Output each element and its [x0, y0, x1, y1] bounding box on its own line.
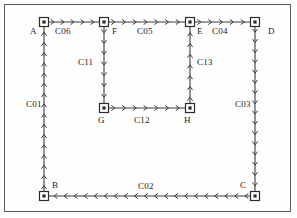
link-label-c11: C11 — [78, 58, 93, 67]
node-f[interactable] — [100, 18, 109, 27]
link-label-c12: C12 — [134, 116, 150, 125]
link-c01 — [41, 22, 46, 196]
node-e[interactable] — [186, 18, 195, 27]
link-label-c01: C01 — [26, 100, 42, 109]
link-c05 — [104, 19, 190, 24]
node-label-b: B — [52, 181, 58, 190]
node-label-h: H — [184, 116, 191, 125]
node-label-e: E — [197, 27, 203, 36]
node-g[interactable] — [100, 104, 109, 113]
link-c02 — [44, 193, 255, 198]
node-label-d: D — [268, 27, 275, 36]
diagram-page: ABCDEFGHC01C02C03C04C05C06C11C12C13 — [0, 0, 297, 218]
link-c13 — [187, 22, 192, 108]
node-b[interactable] — [40, 192, 49, 201]
link-c12 — [104, 105, 190, 110]
link-c03 — [252, 22, 257, 196]
node-a[interactable] — [40, 18, 49, 27]
link-label-c06: C06 — [55, 27, 71, 36]
node-d[interactable] — [251, 18, 260, 27]
link-label-c02: C02 — [138, 182, 154, 191]
link-label-c03: C03 — [235, 100, 251, 109]
node-label-f: F — [112, 27, 117, 36]
link-c11 — [101, 22, 106, 108]
link-c06 — [44, 19, 104, 24]
link-label-c05: C05 — [137, 27, 153, 36]
node-h[interactable] — [186, 104, 195, 113]
link-label-c13: C13 — [197, 58, 213, 67]
node-label-c: C — [240, 181, 246, 190]
node-c[interactable] — [251, 192, 260, 201]
node-label-g: G — [98, 116, 105, 125]
link-c04 — [190, 19, 255, 24]
node-label-a: A — [30, 27, 37, 36]
link-label-c04: C04 — [212, 27, 228, 36]
